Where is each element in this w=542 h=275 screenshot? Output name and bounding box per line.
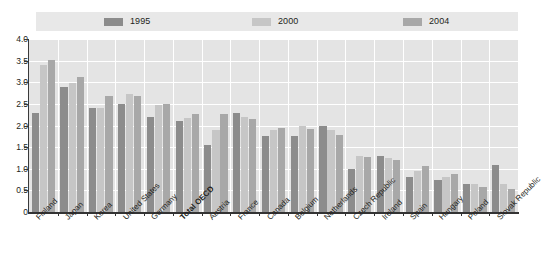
bar — [327, 130, 334, 212]
bar — [60, 87, 67, 212]
x-axis-tick-mark — [461, 212, 462, 216]
y-axis-tick-mark — [24, 82, 28, 83]
bar — [97, 108, 104, 212]
x-axis-tick-mark — [432, 212, 433, 216]
bar-group — [32, 39, 55, 212]
y-axis-tick-mark — [24, 190, 28, 191]
y-axis-tick-mark — [24, 104, 28, 105]
x-axis-tick-mark — [489, 212, 490, 216]
plot-area — [29, 39, 518, 212]
bar — [48, 60, 55, 212]
bar — [40, 65, 47, 212]
legend-label: 2004 — [429, 17, 449, 26]
x-axis-tick-mark — [58, 212, 59, 216]
legend-label: 1995 — [130, 17, 150, 26]
y-axis-tick-mark — [24, 39, 28, 40]
bar — [270, 130, 277, 212]
bar — [155, 105, 162, 212]
bar-group — [262, 39, 285, 212]
bar-group — [319, 39, 342, 212]
x-axis-tick-mark — [202, 212, 203, 216]
y-axis-tick-mark — [24, 169, 28, 170]
bar — [105, 96, 112, 212]
legend-item-1995: 1995 — [104, 12, 150, 31]
legend-swatch-icon — [104, 18, 123, 26]
bar-group — [463, 39, 486, 212]
x-axis-tick-mark — [288, 212, 289, 216]
bar — [233, 113, 240, 213]
y-axis-tick-mark — [24, 61, 28, 62]
bar — [118, 104, 125, 212]
legend-item-2004: 2004 — [403, 12, 449, 31]
bar — [463, 184, 470, 212]
x-axis-tick-mark — [259, 212, 260, 216]
x-axis-tick-mark — [173, 212, 174, 216]
bar — [204, 145, 211, 212]
bar — [492, 165, 499, 212]
bar — [77, 77, 84, 212]
bar-group — [176, 39, 199, 212]
bar — [241, 117, 248, 212]
bar-group — [492, 39, 515, 212]
bar-group — [291, 39, 314, 212]
bar — [69, 83, 76, 212]
y-axis-tick-mark — [24, 126, 28, 127]
x-axis-tick-mark — [403, 212, 404, 216]
bar — [299, 126, 306, 213]
x-axis-tick-mark — [317, 212, 318, 216]
bar-group — [233, 39, 256, 212]
y-axis-tick-mark — [24, 147, 28, 148]
x-axis-tick-mark — [345, 212, 346, 216]
bar — [291, 136, 298, 212]
bar-group — [89, 39, 112, 212]
bar — [184, 118, 191, 212]
legend-item-2000: 2000 — [252, 12, 298, 31]
bar-group — [60, 39, 83, 212]
x-axis-tick-mark — [87, 212, 88, 216]
legend-swatch-icon — [252, 18, 271, 26]
bar-group — [406, 39, 429, 212]
y-axis-tick-label: 0 — [4, 208, 28, 217]
bar — [434, 180, 441, 212]
bar — [89, 108, 96, 212]
x-axis-tick-mark — [144, 212, 145, 216]
y-axis-line — [28, 39, 29, 213]
bar — [212, 130, 219, 212]
x-axis-tick-mark — [115, 212, 116, 216]
legend-swatch-icon — [403, 18, 422, 26]
x-axis-tick-mark — [230, 212, 231, 216]
x-axis-tick-mark — [374, 212, 375, 216]
bar-group — [118, 39, 141, 212]
bar-group — [434, 39, 457, 212]
y-axis-ticks: 4.03.53.02.52.01.51.00.50 — [0, 0, 28, 275]
bar — [319, 126, 326, 213]
legend-label: 2000 — [278, 17, 298, 26]
bar — [262, 136, 269, 212]
chart-legend: 199520002004 — [36, 12, 518, 31]
bar — [32, 113, 39, 212]
bar — [126, 94, 133, 212]
bar — [406, 177, 413, 212]
